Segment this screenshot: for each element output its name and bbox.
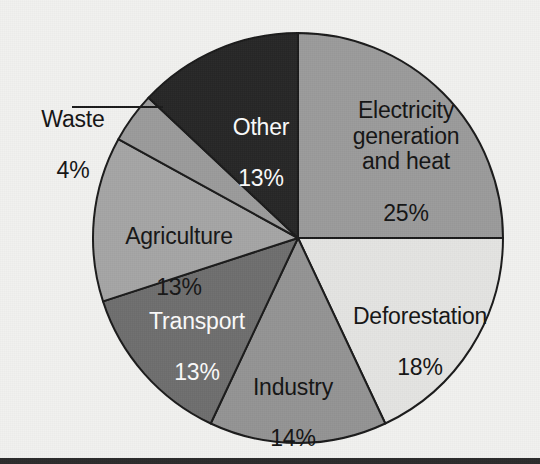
pie-slice-label-electricity: Electricity generation and heat 25%: [326, 72, 486, 252]
pie-slice-label-other: Other 13%: [205, 89, 317, 218]
bottom-edge-bar: [0, 458, 540, 464]
pie-slice-name-agriculture: Agriculture: [99, 224, 259, 250]
pie-slice-name-other: Other: [205, 115, 317, 141]
pie-slice-value-waste: 4%: [20, 158, 126, 184]
pie-slice-value-agriculture: 13%: [99, 275, 259, 301]
pie-slice-label-waste: Waste 4%: [20, 81, 126, 210]
pie-slice-value-electricity: 25%: [326, 201, 486, 227]
chart-page: Electricity generation and heat 25% Defo…: [0, 0, 540, 464]
pie-slice-name-electricity: Electricity generation and heat: [326, 98, 486, 175]
pie-slice-name-deforestation: Deforestation: [330, 304, 510, 330]
pie-slice-value-transport: 13%: [121, 360, 273, 386]
pie-slice-value-industry: 14%: [228, 426, 358, 452]
pie-slice-name-waste: Waste: [20, 107, 126, 133]
pie-slice-value-other: 13%: [205, 166, 317, 192]
